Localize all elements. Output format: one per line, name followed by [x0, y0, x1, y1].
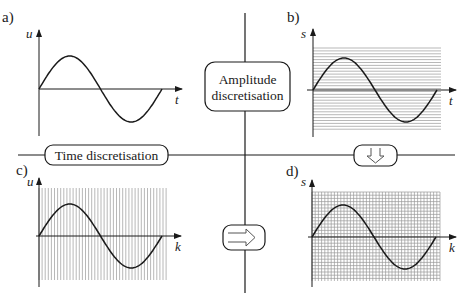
panel-d-x-axis-label: k — [449, 240, 455, 255]
time-discretisation-box: Time discretisation — [45, 145, 168, 165]
amplitude-box-line2: discretisation — [212, 88, 284, 103]
panel-b-label: b) — [287, 9, 300, 26]
time-box-label: Time discretisation — [55, 148, 159, 163]
panel-d-label: d) — [286, 163, 299, 180]
panel-c-y-axis-label: u — [27, 174, 34, 189]
amplitude-box-line1: Amplitude — [219, 72, 277, 87]
panel-c: c) u k — [16, 162, 181, 287]
panel-a: a) u t — [2, 9, 182, 136]
panel-c-label: c) — [16, 162, 28, 179]
panel-a-x-axis-label: t — [175, 92, 179, 107]
panel-d: d) s k — [286, 163, 456, 287]
right-arrow-box — [223, 225, 265, 250]
panel-b-grid — [313, 48, 441, 129]
discretisation-diagram: a) u t b) s t c) u k d) s k Amplitude di… — [0, 0, 469, 301]
panel-a-y-axis-label: u — [26, 26, 33, 41]
panel-c-grid — [39, 188, 166, 280]
panel-d-y-axis-label: s — [301, 174, 306, 189]
down-arrow-box — [354, 145, 397, 166]
panel-b-y-axis-label: s — [301, 26, 306, 41]
amplitude-discretisation-box: Amplitude discretisation — [205, 62, 290, 111]
panel-c-x-axis-label: k — [175, 239, 181, 254]
panel-a-label: a) — [2, 9, 14, 26]
panel-b-x-axis-label: t — [449, 93, 453, 108]
panel-b: b) s t — [287, 9, 456, 137]
